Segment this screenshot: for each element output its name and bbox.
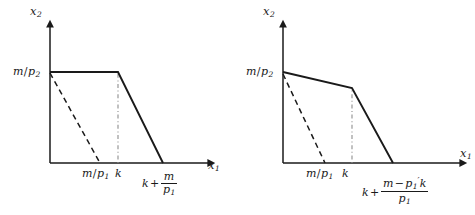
left-diagram-panel: x2 x1 m/p2 m/p1 k k+mp1 <box>0 0 237 215</box>
right-y-axis-name: x2 <box>263 6 275 19</box>
right-kinked-budget-constraint <box>283 72 393 163</box>
left-reference-budget-line <box>50 73 100 163</box>
left-xtick-k: k <box>115 168 122 179</box>
right-x-axis-name: x1 <box>460 148 472 161</box>
right-diagram-panel: x2 x1 m/p2 m/p1 k k+m−p1′kp1 <box>238 0 475 215</box>
right-diagram-svg <box>238 0 475 215</box>
left-y-intercept-label: m/p2 <box>13 66 40 79</box>
left-x-axis-name: x1 <box>208 160 220 173</box>
right-xtick-m-over-p1: m/p1 <box>306 168 333 181</box>
right-xtick-k-plus-frac: k+m−p1′kp1 <box>362 177 429 205</box>
right-y-intercept-label: m/p2 <box>246 66 273 79</box>
left-diagram-svg <box>0 0 237 215</box>
left-kinked-budget-constraint <box>50 72 163 163</box>
left-y-axis-name: x2 <box>30 6 42 19</box>
left-xtick-m-over-p1: m/p1 <box>82 168 109 181</box>
left-xtick-k-plus-m-over-p1: k+mp1 <box>142 171 178 197</box>
right-xtick-k: k <box>342 168 349 179</box>
budget-constraint-figure-pair: x2 x1 m/p2 m/p1 k k+mp1 <box>0 0 475 215</box>
right-reference-budget-line <box>283 74 325 163</box>
